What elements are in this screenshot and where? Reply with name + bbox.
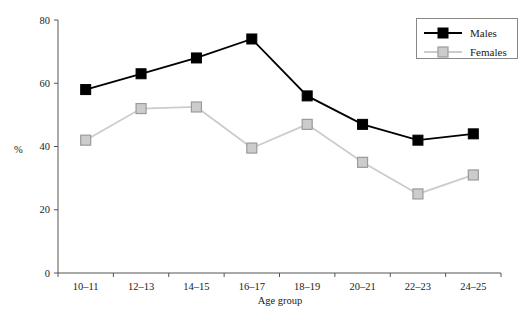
legend-label-males: Males: [470, 27, 497, 39]
chart-legend: MalesFemales: [417, 19, 518, 59]
data-point-marker: [302, 91, 312, 101]
line-chart: 020406080 10–1112–1314–1516–1718–1920–21…: [0, 0, 520, 323]
data-point-marker: [468, 170, 478, 180]
series-line-males: [86, 39, 474, 140]
data-point-marker: [191, 102, 201, 112]
x-axis-ticks: [58, 273, 501, 277]
x-axis-tick-label: 22–23: [405, 281, 431, 292]
data-point-marker: [358, 119, 368, 129]
data-point-marker: [136, 69, 146, 79]
data-point-marker: [358, 157, 368, 167]
x-axis-tick-label: 18–19: [294, 281, 320, 292]
data-point-marker: [136, 104, 146, 114]
data-point-marker: [413, 135, 423, 145]
y-axis-tick-labels: 020406080: [40, 15, 51, 279]
x-axis-tick-label: 20–21: [349, 281, 375, 292]
y-axis-tick-label: 60: [40, 78, 51, 89]
series-females: [81, 102, 479, 199]
x-axis-tick-labels: 10–1112–1314–1516–1718–1920–2122–2324–25: [73, 281, 487, 292]
chart-page: 020406080 10–1112–1314–1516–1718–1920–21…: [0, 0, 520, 323]
y-axis-title: %: [14, 144, 23, 155]
y-axis-tick-label: 40: [40, 141, 51, 152]
x-axis-title: Age group: [258, 295, 303, 306]
data-point-marker: [413, 189, 423, 199]
data-point-marker: [81, 85, 91, 95]
data-point-marker: [247, 143, 257, 153]
data-point-marker: [247, 34, 257, 44]
legend-marker-males: [438, 28, 448, 38]
data-point-marker: [302, 119, 312, 129]
data-point-marker: [191, 53, 201, 63]
y-axis-tick-label: 0: [45, 268, 50, 279]
y-axis-tick-label: 80: [40, 15, 51, 26]
x-axis-tick-label: 12–13: [128, 281, 154, 292]
x-axis-tick-label: 16–17: [239, 281, 265, 292]
x-axis-tick-label: 14–15: [183, 281, 209, 292]
data-point-marker: [81, 135, 91, 145]
x-axis-tick-label: 10–11: [73, 281, 99, 292]
y-axis-tick-label: 20: [40, 204, 51, 215]
series-line-females: [86, 107, 474, 194]
x-axis-tick-label: 24–25: [460, 281, 486, 292]
legend-label-females: Females: [470, 46, 507, 58]
legend-marker-females: [438, 47, 448, 57]
y-axis-ticks: [54, 20, 58, 273]
data-point-marker: [468, 129, 478, 139]
